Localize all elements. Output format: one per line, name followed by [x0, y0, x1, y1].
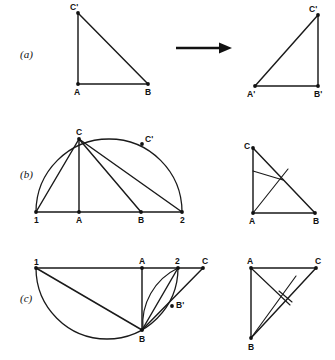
- semicircle-construction-b-vertex-2: [180, 210, 184, 214]
- triangle-abc-with-cevians-c-label-A: A: [247, 256, 253, 266]
- triangle-cab-with-cevians-b-edge-2: [253, 148, 315, 213]
- transform-arrow: [176, 43, 232, 54]
- semicircle-construction-c-vertex-Bprime: [170, 304, 174, 308]
- semicircle-construction-b-label-Cprime: C': [145, 134, 153, 144]
- triangle-abc-with-cevians-c-edge-2: [251, 268, 316, 338]
- semicircle-construction-c-label-Bprime: B': [176, 300, 184, 310]
- triangle-abc-prime-edge-2: [78, 13, 148, 84]
- semicircle-construction-b-label-2: 2: [180, 215, 185, 225]
- semicircle-construction-b-vertex-B: [139, 210, 143, 214]
- triangle-abc-prime-label-B: B: [145, 87, 151, 97]
- semicircle-construction-c-label-1: 1: [34, 257, 39, 267]
- semicircle-construction-b-cevian-0: [36, 139, 79, 212]
- panel-b: (b)1AB2CC'CAB: [20, 127, 319, 226]
- semicircle-construction-c: 1A2CBB': [34, 256, 208, 344]
- semicircle-construction-c-vertex-A: [140, 266, 144, 270]
- panel-label-c: (c): [20, 292, 33, 305]
- semicircle-construction-c-label-C: C: [202, 256, 208, 266]
- triangle-abc-with-cevians-c-cevian-b-to-ac: [251, 276, 296, 338]
- semicircle-construction-b-vertex-1: [34, 210, 38, 214]
- triangle-abc-with-cevians-c-vertex-C: [314, 266, 318, 270]
- triangle-a-prime-b-prime-c-prime-edge-0: [255, 15, 318, 86]
- triangle-a-prime-b-prime-c-prime: C'A'B': [247, 4, 322, 99]
- semicircle-construction-c-vertex-C: [201, 266, 205, 270]
- triangle-abc-with-cevians-c: ACB: [247, 256, 321, 352]
- semicircle-construction-b-vertex-C: [77, 137, 81, 141]
- semicircle-construction-b-vertex-A: [77, 210, 81, 214]
- triangle-cab-with-cevians-b: CAB: [244, 141, 319, 226]
- triangle-abc-with-cevians-c-label-C: C: [315, 256, 321, 266]
- semicircle-construction-c-label-B: B: [139, 334, 145, 344]
- triangle-abc-with-cevians-c-cevian-a-to-bc: [251, 268, 290, 305]
- triangle-a-prime-b-prime-c-prime-label-Bprime: B': [314, 89, 322, 99]
- triangle-abc-prime-vertex-A: [76, 82, 80, 86]
- triangle-cab-with-cevians-b-label-B: B: [313, 216, 319, 226]
- figure-root: (a)C'ABC'A'B'(b)1AB2CC'CAB(c)1A2CBB'ACB: [0, 0, 335, 360]
- semicircle-construction-b-label-B: B: [138, 215, 144, 225]
- panel-label-b: (b): [20, 168, 33, 181]
- triangle-a-prime-b-prime-c-prime-label-Cprime: C': [309, 4, 317, 14]
- semicircle-construction-c-label-A: A: [139, 256, 145, 266]
- geometry-figure: (a)C'ABC'A'B'(b)1AB2CC'CAB(c)1A2CBB'ACB: [0, 0, 335, 360]
- triangle-abc-prime: C'AB: [70, 2, 151, 97]
- semicircle-construction-b-vertex-Cprime: [140, 142, 144, 146]
- semicircle-construction-b-label-A: A: [76, 215, 82, 225]
- triangle-abc-with-cevians-c-vertex-A: [249, 266, 253, 270]
- triangle-cab-with-cevians-b-label-A: A: [249, 216, 255, 226]
- panel-label-a: (a): [20, 48, 33, 61]
- semicircle-construction-b: 1AB2CC': [34, 127, 185, 225]
- triangle-abc-prime-vertex-B: [146, 82, 150, 86]
- semicircle-construction-c-one-to-b: [36, 268, 142, 330]
- semicircle-construction-c-vertex-B: [140, 328, 144, 332]
- triangle-cab-with-cevians-b-label-C: C: [244, 141, 250, 151]
- triangle-cab-with-cevians-b-vertex-B: [313, 211, 317, 215]
- semicircle-construction-b-label-1: 1: [34, 215, 39, 225]
- semicircle-construction-b-label-C: C: [76, 127, 82, 137]
- triangle-a-prime-b-prime-c-prime-vertex-Aprime: [253, 84, 257, 88]
- panel-a: (a)C'ABC'A'B': [20, 2, 322, 99]
- transform-arrow-head: [219, 43, 232, 54]
- triangle-cab-with-cevians-b-vertex-C: [251, 146, 255, 150]
- triangle-cab-with-cevians-b-vertex-A: [251, 211, 255, 215]
- triangle-abc-with-cevians-c-vertex-B: [249, 336, 253, 340]
- triangle-a-prime-b-prime-c-prime-vertex-Bprime: [316, 84, 320, 88]
- panel-c: (c)1A2CBB'ACB: [20, 256, 321, 352]
- semicircle-construction-b-cevian-3: [79, 139, 182, 212]
- semicircle-construction-c-vertex-2: [176, 266, 180, 270]
- triangle-abc-prime-label-A: A: [74, 87, 80, 97]
- triangle-abc-with-cevians-c-label-B: B: [248, 342, 254, 352]
- triangle-abc-prime-label-Cprime: C': [70, 2, 78, 12]
- triangle-cab-with-cevians-b-cevian-a-to-hypotenuse: [253, 169, 288, 213]
- semicircle-construction-c-label-2: 2: [175, 256, 180, 266]
- triangle-a-prime-b-prime-c-prime-label-Aprime: A': [247, 89, 255, 99]
